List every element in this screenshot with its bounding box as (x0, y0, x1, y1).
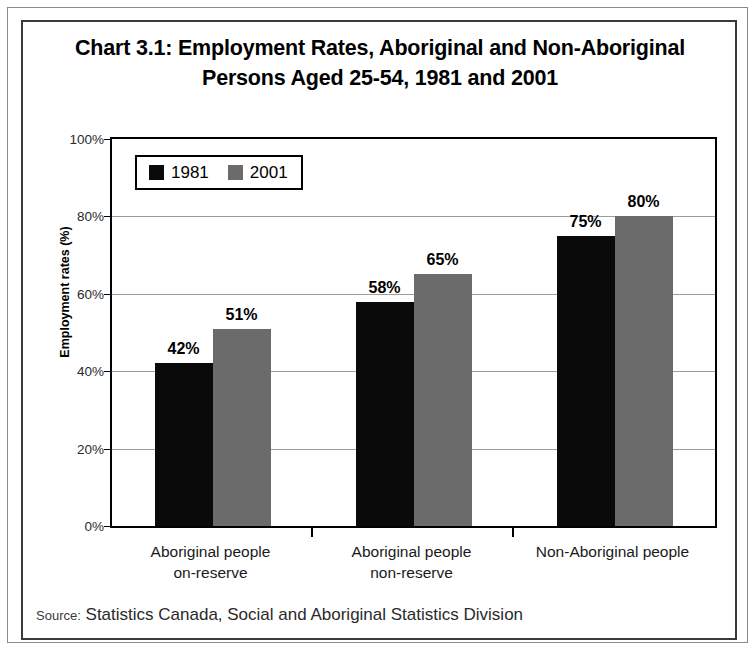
bar-1981-3[interactable] (557, 236, 615, 526)
bar-value-label: 65% (426, 251, 458, 269)
y-tick-label: 0% (58, 519, 104, 534)
source-note: Source: Statistics Canada, Social and Ab… (36, 605, 523, 625)
x-category-label-2: Aboriginal peoplenon-reserve (302, 541, 522, 583)
chart-title-line-1: Chart 3.1: Employment Rates, Aboriginal … (75, 36, 685, 60)
legend-item-2001[interactable]: 2001 (228, 164, 288, 181)
source-text: Statistics Canada, Social and Aboriginal… (86, 605, 524, 624)
x-tick-mark (512, 528, 514, 537)
bar-value-label: 80% (627, 193, 659, 211)
bar-2001-1[interactable] (213, 329, 271, 526)
chart-page: Chart 3.1: Employment Rates, Aboriginal … (0, 0, 756, 651)
x-tick-mark (311, 528, 313, 537)
x-category-line-2: non-reserve (302, 562, 522, 583)
y-tick-label: 100% (58, 132, 104, 147)
bar-value-label: 42% (167, 340, 199, 358)
legend-label: 1981 (171, 164, 209, 181)
y-tick-label: 20% (58, 441, 104, 456)
legend-swatch-icon (228, 165, 243, 180)
bars-layer: 42%51%58%65%75%80% (112, 139, 715, 526)
bar-value-label: 75% (569, 213, 601, 231)
legend-label: 2001 (250, 164, 288, 181)
source-prefix: Source: (36, 608, 81, 623)
x-category-line-2: on-reserve (101, 562, 321, 583)
x-category-line-1: Non-Aboriginal people (503, 541, 723, 562)
bar-1981-1[interactable] (155, 363, 213, 526)
chart-legend: 19812001 (135, 155, 303, 190)
y-axis-title: Employment rates (%) (58, 192, 72, 392)
x-category-label-1: Aboriginal peopleon-reserve (101, 541, 321, 583)
legend-swatch-icon (149, 165, 164, 180)
bar-1981-2[interactable] (356, 302, 414, 526)
bar-value-label: 58% (368, 279, 400, 297)
bar-2001-3[interactable] (615, 216, 673, 526)
bar-2001-2[interactable] (414, 274, 472, 526)
chart-title-line-2: Persons Aged 25-54, 1981 and 2001 (40, 63, 720, 93)
plot-area: 42%51%58%65%75%80% 19812001 (110, 137, 717, 528)
x-category-line-1: Aboriginal people (302, 541, 522, 562)
x-category-line-1: Aboriginal people (101, 541, 321, 562)
x-category-label-3: Non-Aboriginal people (503, 541, 723, 562)
legend-item-1981[interactable]: 1981 (149, 164, 209, 181)
bar-value-label: 51% (225, 306, 257, 324)
chart-title: Chart 3.1: Employment Rates, Aboriginal … (40, 33, 720, 93)
